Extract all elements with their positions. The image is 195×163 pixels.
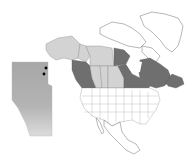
inset-alberta-shape — [12, 62, 52, 136]
region-northwest-territories — [86, 46, 114, 66]
region-baja-california — [96, 118, 104, 134]
north-america-map — [0, 0, 195, 163]
alberta-inset — [12, 62, 52, 136]
region-greenland — [140, 12, 183, 52]
region-alaska — [46, 36, 80, 60]
region-mexico — [104, 120, 140, 154]
map-svg — [0, 0, 195, 163]
inset-marker-1 — [45, 67, 48, 70]
inset-marker-2 — [43, 73, 46, 76]
region-arctic-islands — [100, 22, 146, 48]
